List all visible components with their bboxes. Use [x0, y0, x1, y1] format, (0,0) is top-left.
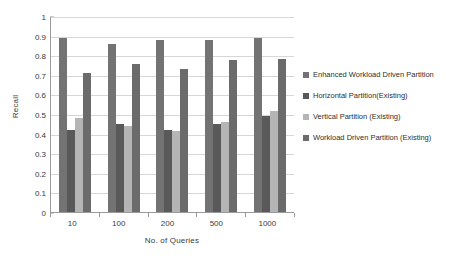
x-axis-divider: [294, 213, 295, 217]
bar: [132, 64, 140, 212]
legend-item[interactable]: Enhanced Workload Driven Partition: [303, 70, 453, 80]
x-axis-divider: [99, 213, 100, 217]
bar-groups: [51, 17, 294, 212]
bar: [124, 126, 132, 212]
bar: [156, 40, 164, 212]
x-axis-tick: 1000: [258, 213, 276, 228]
y-axis-tick-labels: 00.10.20.30.40.50.60.70.80.91: [24, 17, 50, 213]
bar: [67, 130, 75, 212]
y-axis-tick: 1: [42, 13, 46, 22]
bar: [180, 69, 188, 212]
bar: [270, 111, 278, 212]
legend-item[interactable]: Workload Driven Partition (Existing): [303, 133, 453, 143]
legend-label: Enhanced Workload Driven Partition: [313, 70, 434, 80]
x-axis-tick: 10: [68, 213, 77, 228]
x-axis-tick: 500: [210, 213, 223, 228]
x-axis-tick: 200: [161, 213, 174, 228]
x-axis-title: No. of Queries: [50, 236, 294, 245]
legend: Enhanced Workload Driven PartitionHorizo…: [303, 70, 453, 154]
legend-swatch-icon: [303, 114, 309, 120]
legend-label: Horizontal Partition(Existing): [313, 91, 408, 101]
y-axis-tick: 0.9: [35, 32, 46, 41]
bar-group: [108, 17, 140, 212]
bar: [229, 60, 237, 212]
bar: [205, 40, 213, 212]
bar-group: [156, 17, 188, 212]
bar: [75, 118, 83, 212]
x-axis-divider: [196, 213, 197, 217]
legend-item[interactable]: Vertical Partition (Existing): [303, 112, 453, 122]
x-axis-tick: 100: [112, 213, 125, 228]
legend-label: Workload Driven Partition (Existing): [313, 133, 431, 143]
x-axis-divider: [50, 213, 51, 217]
bar: [172, 131, 180, 212]
plot-area: [50, 17, 294, 213]
bar: [83, 73, 91, 212]
bar: [262, 116, 270, 212]
bar: [254, 38, 262, 212]
legend-swatch-icon: [303, 72, 309, 78]
bar: [116, 124, 124, 212]
legend-swatch-icon: [303, 93, 309, 99]
y-axis-tick: 0.3: [35, 150, 46, 159]
legend-label: Vertical Partition (Existing): [313, 112, 401, 122]
y-axis-title: Recall: [6, 0, 26, 213]
y-axis-tick: 0.4: [35, 130, 46, 139]
x-axis-divider: [148, 213, 149, 217]
bar-group: [59, 17, 91, 212]
y-axis-tick: 0.7: [35, 71, 46, 80]
bar-group: [254, 17, 286, 212]
bar: [108, 44, 116, 212]
x-axis-tick-labels: 101002005001000: [50, 213, 294, 233]
y-axis-tick: 0: [42, 209, 46, 218]
bar-group: [205, 17, 237, 212]
y-axis-tick: 0.8: [35, 52, 46, 61]
recall-bar-chart: Recall 00.10.20.30.40.50.60.70.80.91 101…: [0, 0, 455, 265]
y-axis-tick: 0.2: [35, 169, 46, 178]
x-axis-divider: [245, 213, 246, 217]
bar: [213, 124, 221, 212]
y-axis-tick: 0.1: [35, 189, 46, 198]
legend-item[interactable]: Horizontal Partition(Existing): [303, 91, 453, 101]
bar: [59, 38, 67, 212]
y-axis-tick: 0.5: [35, 111, 46, 120]
bar: [164, 130, 172, 212]
bar: [221, 122, 229, 212]
y-axis-tick: 0.6: [35, 91, 46, 100]
y-axis-title-label: Recall: [12, 95, 21, 118]
bar: [278, 59, 286, 212]
legend-swatch-icon: [303, 135, 309, 141]
